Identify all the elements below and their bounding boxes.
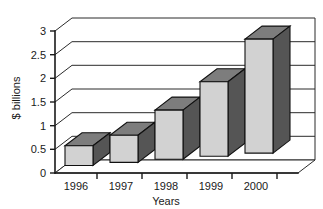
- y-tick-label-3: 3: [40, 25, 46, 37]
- x-tick-label-1999: 1999: [199, 180, 223, 192]
- bar-1997: [110, 122, 155, 162]
- bar-1999-side: [228, 69, 245, 157]
- bar-1999-front: [200, 82, 228, 157]
- depth-edge-1-5: [55, 89, 72, 102]
- depth-edge-3: [55, 18, 72, 31]
- bar-1996-front: [65, 146, 93, 166]
- y-tick-label-0: 0: [40, 167, 46, 179]
- y-tick-label-0-5: 0.5: [31, 143, 46, 155]
- depth-edge-2-5: [55, 42, 72, 55]
- bar-1998: [155, 97, 200, 159]
- x-tick-label-2000: 2000: [244, 180, 268, 192]
- y-tick-labels: 3 2.5 2 1.5 1 0.5 0: [31, 25, 46, 179]
- bar-chart-figure: 3 2.5 2 1.5 1 0.5 0 1996 1997 1998 1999 …: [0, 0, 323, 209]
- bar-2000: [245, 26, 290, 153]
- bar-1997-front: [110, 135, 138, 162]
- y-tick-label-1: 1: [40, 120, 46, 132]
- bar-1999: [200, 69, 245, 157]
- bar-1998-front: [155, 110, 183, 159]
- x-tick-label-1998: 1998: [154, 180, 178, 192]
- bar-2000-front: [245, 39, 273, 153]
- x-tick-label-1996: 1996: [64, 180, 88, 192]
- y-tick-label-2: 2: [40, 72, 46, 84]
- x-axis-title: Years: [152, 195, 180, 207]
- bar-2000-side: [273, 26, 290, 153]
- y-tick-label-2-5: 2.5: [31, 49, 46, 61]
- x-tick-marks: [97, 173, 277, 179]
- x-tick-labels: 1996 1997 1998 1999 2000: [64, 180, 268, 192]
- x-tick-label-1997: 1997: [109, 180, 133, 192]
- depth-edge-1: [55, 113, 72, 126]
- y-axis-title: $ billions: [10, 76, 22, 119]
- y-tick-label-1-5: 1.5: [31, 96, 46, 108]
- chart-canvas: 3 2.5 2 1.5 1 0.5 0 1996 1997 1998 1999 …: [0, 0, 323, 209]
- depth-edge-2: [55, 65, 72, 78]
